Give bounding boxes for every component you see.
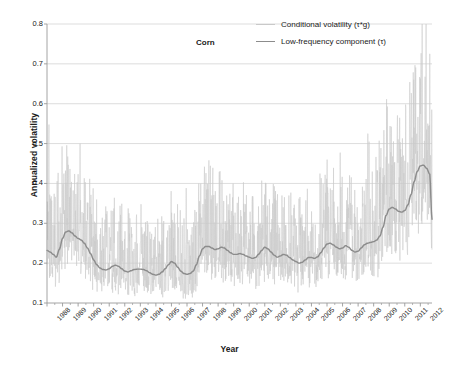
x-tick-label: 1999 xyxy=(227,306,243,322)
x-tick-label: 1990 xyxy=(87,306,103,322)
x-tick-label: 1996 xyxy=(180,306,196,322)
x-tick-label: 2002 xyxy=(273,306,289,322)
x-tick-label: 2009 xyxy=(382,306,398,322)
x-tick-label: 1994 xyxy=(149,306,165,322)
legend-label-low-frequency: Low-frequency component (τ) xyxy=(281,37,386,46)
x-tick-label: 2007 xyxy=(351,306,367,322)
chart-legend: Conditional volatility (τ*g) Low-frequen… xyxy=(256,16,386,50)
volatility-chart: Annualized volatility Year Corn 0.80.70.… xyxy=(0,0,459,370)
x-tick-label: 1991 xyxy=(102,306,118,322)
x-tick-label: 2012 xyxy=(429,306,445,322)
x-tick-label: 2004 xyxy=(304,306,320,322)
x-tick-label: 2003 xyxy=(289,306,305,322)
x-tick-label: 2011 xyxy=(413,306,429,322)
x-tick-label: 2010 xyxy=(398,306,414,322)
legend-item-conditional-volatility: Conditional volatility (τ*g) xyxy=(256,16,386,33)
x-tick-label: 2005 xyxy=(320,306,336,322)
x-axis-ticks: 1988198919901991199219931994199519961997… xyxy=(0,0,459,370)
x-tick-label: 2008 xyxy=(367,306,383,322)
x-tick-label: 1997 xyxy=(196,306,212,322)
legend-label-conditional-volatility: Conditional volatility (τ*g) xyxy=(281,20,370,29)
legend-item-low-frequency: Low-frequency component (τ) xyxy=(256,33,386,50)
x-tick-label: 1993 xyxy=(133,306,149,322)
legend-swatch-conditional-volatility xyxy=(256,24,275,25)
legend-swatch-low-frequency xyxy=(256,41,275,42)
x-tick-label: 2000 xyxy=(242,306,258,322)
x-tick-label: 1988 xyxy=(56,306,72,322)
x-tick-label: 2006 xyxy=(336,306,352,322)
x-tick-label: 1995 xyxy=(164,306,180,322)
x-tick-label: 2001 xyxy=(258,306,274,322)
x-tick-label: 1992 xyxy=(118,306,134,322)
x-tick-label: 1998 xyxy=(211,306,227,322)
x-tick-label: 1989 xyxy=(71,306,87,322)
